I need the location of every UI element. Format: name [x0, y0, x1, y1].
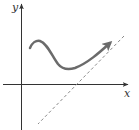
x-axis-label: x: [124, 87, 131, 100]
y-axis-label: y: [11, 1, 19, 14]
function-curve: [30, 41, 110, 69]
graph-diagram: y x: [0, 0, 139, 130]
oblique-asymptote-line: [38, 36, 124, 124]
